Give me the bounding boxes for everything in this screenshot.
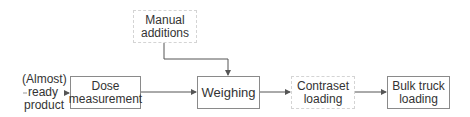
node-contraset-loading: Contraset loading xyxy=(291,76,355,109)
node-label: Manual xyxy=(141,14,189,27)
node-label: Dose xyxy=(69,80,142,93)
node-label: loading xyxy=(392,93,445,106)
node-label: additions xyxy=(141,27,189,40)
node-dose-measurement: Dose measurement xyxy=(70,76,141,109)
node-label: loading xyxy=(297,93,349,106)
node-label: Weighing xyxy=(202,86,256,99)
node-label: Bulk truck xyxy=(392,80,445,93)
node-bulk-truck-loading: Bulk truck loading xyxy=(387,76,450,109)
node-manual-additions: Manual additions xyxy=(133,10,197,43)
node-label: Contraset xyxy=(297,80,349,93)
node-label: measurement xyxy=(69,93,142,106)
node-weighing: Weighing xyxy=(197,76,260,109)
edge-manual-weighing xyxy=(164,43,228,75)
source-label: (Almost) ready product xyxy=(22,73,64,112)
source-line-3: product xyxy=(22,99,64,112)
